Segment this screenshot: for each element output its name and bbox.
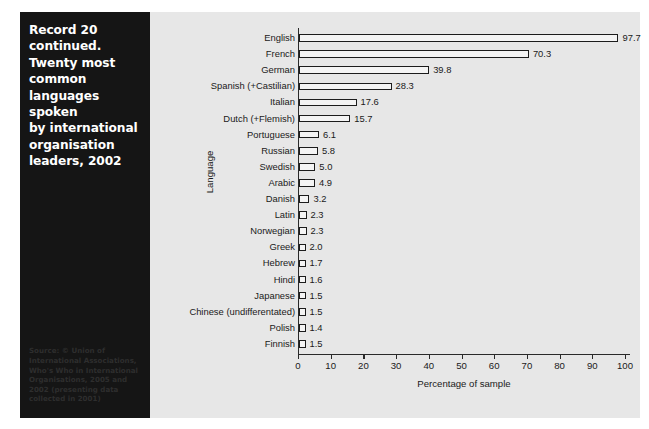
bar: [299, 131, 319, 139]
bar: [299, 244, 306, 252]
bar-row: Greek2.0: [185, 239, 630, 255]
bar-row: Russian5.8: [185, 143, 630, 159]
bar: [299, 34, 618, 42]
caption-source: Source: © Union of International Associa…: [29, 346, 147, 404]
bar: [299, 83, 392, 91]
category-label: German: [185, 62, 295, 78]
bar-row: Portuguese6.1: [185, 127, 630, 143]
bar: [299, 227, 307, 235]
x-tick-mark: [625, 354, 626, 359]
bar-value-label: 4.9: [319, 175, 332, 191]
bar-row: Polish1.4: [185, 320, 630, 336]
bar-value-label: 70.3: [533, 46, 551, 62]
category-label: Swedish: [185, 159, 295, 175]
x-tick-mark: [396, 354, 397, 359]
bar: [299, 99, 357, 107]
bar-row: Norwegian2.3: [185, 223, 630, 239]
caption-panel: Record 20 continued. Twenty most common …: [20, 12, 150, 418]
x-tick-label: 100: [605, 360, 645, 371]
bar-row: French70.3: [185, 46, 630, 62]
category-label: Hindi: [185, 272, 295, 288]
category-label: English: [185, 30, 295, 46]
bar: [299, 179, 315, 187]
category-label: Danish: [185, 191, 295, 207]
bar-value-label: 5.0: [319, 159, 332, 175]
x-axis-title: Percentage of sample: [298, 378, 630, 389]
bar-row: Japanese1.5: [185, 288, 630, 304]
bar: [299, 276, 306, 284]
bar-row: Hindi1.6: [185, 272, 630, 288]
bar-value-label: 39.8: [433, 62, 451, 78]
bar: [299, 115, 350, 123]
bar-value-label: 2.3: [311, 223, 324, 239]
bar: [299, 195, 309, 203]
bar: [299, 147, 318, 155]
category-label: Japanese: [185, 288, 295, 304]
bar-value-label: 1.5: [310, 288, 323, 304]
bar: [299, 260, 306, 268]
bar-row: Swedish5.0: [185, 159, 630, 175]
bar-row: English97.7: [185, 30, 630, 46]
bar-value-label: 6.1: [323, 127, 336, 143]
bar-row: Finnish1.5: [185, 336, 630, 352]
category-label: Norwegian: [185, 223, 295, 239]
bar: [299, 163, 315, 171]
bar: [299, 50, 529, 58]
bar: [299, 66, 429, 74]
x-tick-mark: [462, 354, 463, 359]
x-tick-mark: [527, 354, 528, 359]
bar-value-label: 1.7: [310, 255, 323, 271]
x-axis-line: [298, 354, 630, 355]
bar-value-label: 28.3: [396, 78, 414, 94]
category-label: Greek: [185, 239, 295, 255]
bar-row: German39.8: [185, 62, 630, 78]
category-label: French: [185, 46, 295, 62]
category-label: Arabic: [185, 175, 295, 191]
x-tick-mark: [560, 354, 561, 359]
bar-value-label: 17.6: [361, 94, 379, 110]
bar-value-label: 97.7: [622, 30, 640, 46]
bar: [299, 292, 306, 300]
category-label: Latin: [185, 207, 295, 223]
bar-value-label: 1.5: [310, 304, 323, 320]
bar-value-label: 5.8: [322, 143, 335, 159]
category-label: Russian: [185, 143, 295, 159]
bar: [299, 324, 306, 332]
bar-value-label: 15.7: [354, 111, 372, 127]
bar-row: Chinese (undifferentated)1.5: [185, 304, 630, 320]
x-tick-mark: [592, 354, 593, 359]
bar-row: Danish3.2: [185, 191, 630, 207]
plot-area: English97.7French70.3German39.8Spanish (…: [185, 28, 630, 373]
category-label: Finnish: [185, 336, 295, 352]
figure-container: Record 20 continued. Twenty most common …: [20, 12, 640, 418]
chart-area: Language English97.7French70.3German39.8…: [150, 12, 640, 418]
category-label: Polish: [185, 320, 295, 336]
bar-value-label: 2.3: [311, 207, 324, 223]
bar: [299, 211, 307, 219]
bar-row: Spanish (+Castilian)28.3: [185, 78, 630, 94]
bar-row: Hebrew1.7: [185, 255, 630, 271]
bar-value-label: 3.2: [313, 191, 326, 207]
x-tick-mark: [298, 354, 299, 359]
y-axis-line: [298, 28, 299, 354]
category-label: Portuguese: [185, 127, 295, 143]
x-tick-mark: [429, 354, 430, 359]
bar-row: Italian17.6: [185, 94, 630, 110]
category-label: Dutch (+Flemish): [185, 111, 295, 127]
bar-value-label: 1.5: [310, 336, 323, 352]
bar: [299, 308, 306, 316]
bar-row: Arabic4.9: [185, 175, 630, 191]
bar: [299, 340, 306, 348]
category-label: Chinese (undifferentated): [185, 304, 295, 320]
x-tick-mark: [363, 354, 364, 359]
x-tick-mark: [494, 354, 495, 359]
category-label: Hebrew: [185, 255, 295, 271]
bar-row: Latin2.3: [185, 207, 630, 223]
category-label: Italian: [185, 94, 295, 110]
bar-value-label: 1.4: [310, 320, 323, 336]
bar-row: Dutch (+Flemish)15.7: [185, 111, 630, 127]
bar-value-label: 1.6: [310, 272, 323, 288]
caption-title: Record 20 continued. Twenty most common …: [29, 22, 141, 170]
bar-value-label: 2.0: [310, 239, 323, 255]
x-tick-mark: [331, 354, 332, 359]
